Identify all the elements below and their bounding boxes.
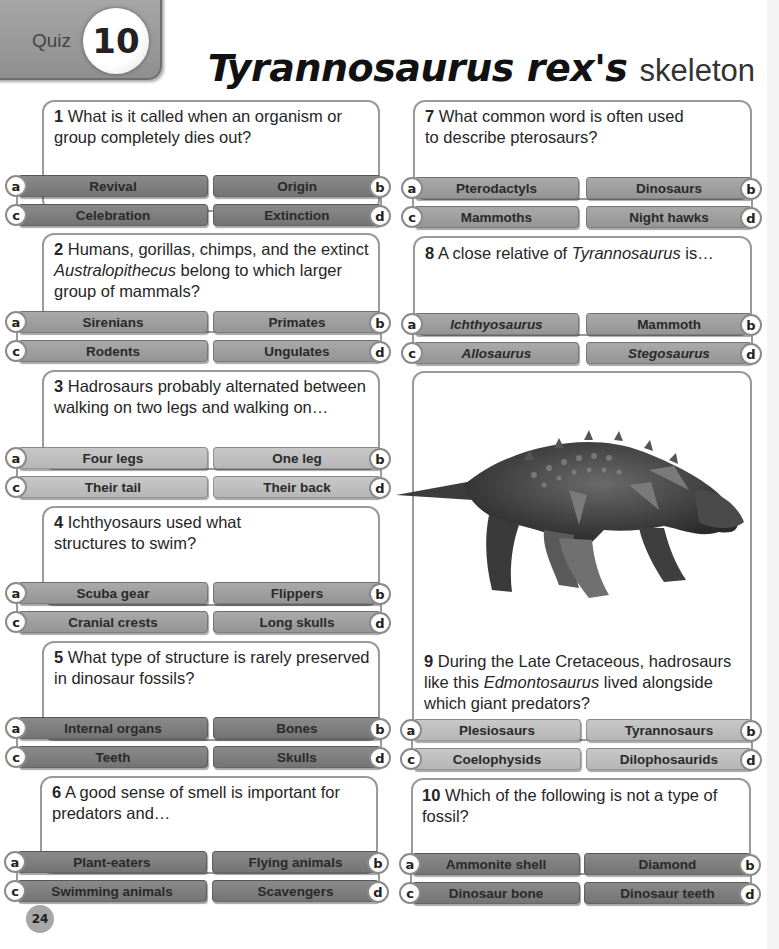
dinosaur-illustration <box>394 430 746 600</box>
q10-option-b[interactable]: Diamond <box>584 853 751 875</box>
letter-badge-a: a <box>5 447 27 469</box>
q6-option-d[interactable]: Scavengers <box>212 880 379 902</box>
question-7-text: 7 What common word is often used to desc… <box>425 106 695 148</box>
letter-badge-a: a <box>400 719 422 741</box>
q2-option-a[interactable]: Sirenians <box>18 311 208 333</box>
letter-badge-a: a <box>4 851 26 873</box>
letter-badge-c: c <box>401 206 423 228</box>
q5-option-d[interactable]: Skulls <box>213 746 381 768</box>
quiz-number-badge: 10 <box>83 8 149 74</box>
q1-option-d[interactable]: Extinction <box>213 204 381 226</box>
page-title: Tyrannosaurus rex's skeleton <box>208 46 755 90</box>
q4-option-d[interactable]: Long skulls <box>213 611 381 633</box>
letter-badge-d: d <box>369 341 391 363</box>
letter-badge-c: c <box>399 882 421 904</box>
question-3-text: 3 Hadrosaurs probably alternated between… <box>54 376 374 418</box>
letter-badge-b: b <box>369 448 391 470</box>
letter-badge-a: a <box>399 853 421 875</box>
title-light: skeleton <box>640 53 755 88</box>
letter-badge-b: b <box>740 720 762 742</box>
letter-badge-d: d <box>369 612 391 634</box>
q1-option-a[interactable]: Revival <box>18 175 208 197</box>
q2-option-d[interactable]: Ungulates <box>213 340 381 362</box>
quiz-label: Quiz <box>32 30 71 52</box>
q10-option-c[interactable]: Dinosaur bone <box>412 882 580 904</box>
q8-option-a[interactable]: Ichthyosaurus <box>414 313 579 335</box>
q7-option-d[interactable]: Night hawks <box>586 206 752 228</box>
letter-badge-a: a <box>5 582 27 604</box>
q7-option-a[interactable]: Pterodactyls <box>414 177 579 199</box>
letter-badge-c: c <box>400 748 422 770</box>
letter-badge-b: b <box>369 718 391 740</box>
q4-option-c[interactable]: Cranial crests <box>18 611 208 633</box>
q3-option-a[interactable]: Four legs <box>18 447 208 469</box>
q3-option-b[interactable]: One leg <box>213 447 381 469</box>
q6-option-c[interactable]: Swimming animals <box>17 880 207 902</box>
letter-badge-b: b <box>740 314 762 336</box>
q8-option-c[interactable]: Allosaurus <box>414 342 579 364</box>
letter-badge-d: d <box>367 881 389 903</box>
letter-badge-c: c <box>401 342 423 364</box>
letter-badge-b: b <box>367 852 389 874</box>
q8-option-d[interactable]: Stegosaurus <box>586 342 752 364</box>
q9-option-a[interactable]: Plesiosaurs <box>413 719 581 741</box>
q4-option-b[interactable]: Flippers <box>213 582 381 604</box>
q10-option-d[interactable]: Dinosaur teeth <box>584 882 751 904</box>
letter-badge-a: a <box>5 175 27 197</box>
letter-badge-b: b <box>369 312 391 334</box>
q7-option-b[interactable]: Dinosaurs <box>586 177 752 199</box>
q6-option-b[interactable]: Flying animals <box>212 851 379 873</box>
q3-option-c[interactable]: Their tail <box>18 476 208 498</box>
q2-option-c[interactable]: Rodents <box>18 340 208 362</box>
page-number-badge: 24 <box>26 905 54 933</box>
letter-badge-d: d <box>369 205 391 227</box>
question-5-text: 5 What type of structure is rarely prese… <box>54 647 374 689</box>
armored-dinosaur-icon <box>394 430 746 600</box>
q5-option-a[interactable]: Internal organs <box>18 717 208 739</box>
letter-badge-b: b <box>369 583 391 605</box>
q5-option-b[interactable]: Bones <box>213 717 381 739</box>
letter-badge-d: d <box>740 343 762 365</box>
q8-option-b[interactable]: Mammoth <box>586 313 752 335</box>
question-6-text: 6 A good sense of smell is important for… <box>52 782 372 824</box>
letter-badge-b: b <box>739 854 761 876</box>
question-4-text: 4 Ichthyosaurs used what structures to s… <box>54 512 314 554</box>
q9-option-c[interactable]: Coelophysids <box>413 748 581 770</box>
letter-badge-c: c <box>4 880 26 902</box>
question-1-text: 1 What is it called when an organism or … <box>54 106 369 148</box>
q7-option-c[interactable]: Mammoths <box>414 206 579 228</box>
letter-badge-b: b <box>740 178 762 200</box>
q3-option-d[interactable]: Their back <box>213 476 381 498</box>
q9-option-d[interactable]: Dilophosaurids <box>586 748 752 770</box>
question-10-text: 10 Which of the following is not a type … <box>422 785 722 827</box>
letter-badge-d: d <box>739 883 761 905</box>
q1-option-b[interactable]: Origin <box>213 175 381 197</box>
q4-option-a[interactable]: Scuba gear <box>18 582 208 604</box>
question-2-text: 2 Humans, gorillas, chimps, and the exti… <box>54 239 374 302</box>
title-bold: Tyrannosaurus rex's <box>208 46 628 90</box>
letter-badge-b: b <box>369 176 391 198</box>
q6-option-a[interactable]: Plant-eaters <box>17 851 207 873</box>
letter-badge-d: d <box>369 477 391 499</box>
q2-option-b[interactable]: Primates <box>213 311 381 333</box>
q5-option-c[interactable]: Teeth <box>18 746 208 768</box>
letter-badge-a: a <box>5 717 27 739</box>
letter-badge-d: d <box>369 747 391 769</box>
letter-badge-c: c <box>5 611 27 633</box>
letter-badge-d: d <box>740 749 762 771</box>
page-edge <box>767 0 779 949</box>
letter-badge-a: a <box>5 311 27 333</box>
q10-option-a[interactable]: Ammonite shell <box>412 853 580 875</box>
q9-option-b[interactable]: Tyrannosaurs <box>586 719 752 741</box>
letter-badge-a: a <box>401 313 423 335</box>
letter-badge-a: a <box>401 177 423 199</box>
question-8-text: 8 A close relative of Tyrannosaurus is… <box>425 243 745 264</box>
q1-option-c[interactable]: Celebration <box>18 204 208 226</box>
letter-badge-c: c <box>5 476 27 498</box>
letter-badge-c: c <box>5 204 27 226</box>
letter-badge-c: c <box>5 340 27 362</box>
question-9-text: 9 During the Late Cretaceous, hadrosaurs… <box>424 651 744 714</box>
letter-badge-d: d <box>740 207 762 229</box>
letter-badge-c: c <box>5 746 27 768</box>
